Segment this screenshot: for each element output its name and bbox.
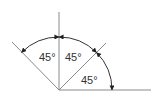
line-diagonal-left bbox=[12, 42, 59, 90]
angle-diagram: 45° 45° 45° bbox=[0, 0, 154, 98]
arc-right bbox=[97, 53, 113, 91]
angle-label-middle: 45° bbox=[65, 51, 82, 63]
angle-label-left: 45° bbox=[39, 51, 56, 63]
angle-label-right: 45° bbox=[81, 74, 98, 86]
